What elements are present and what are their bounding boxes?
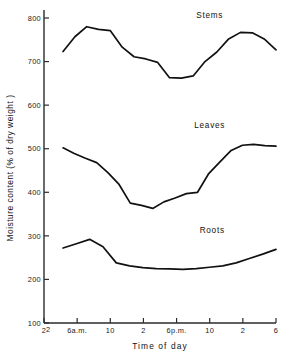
line-chart: 100200300400500600700800 26a.m.1026p.m.1…: [0, 0, 282, 353]
x-tick-label-6: 2: [241, 326, 245, 335]
y-tick-label-500: 500: [28, 144, 41, 153]
y-tick-label-700: 700: [28, 57, 41, 66]
x-tick-label-1: 6a.m.: [67, 326, 87, 335]
x-tick-label-3: 2: [141, 326, 145, 335]
series-line-stems: [63, 27, 276, 78]
x-axis-title: Time of day: [132, 341, 188, 351]
x-axis-tick-labels: 26a.m.1026p.m.1026: [42, 326, 278, 335]
series-label-stems: Stems: [196, 11, 223, 20]
x-tick-label-2: 10: [106, 326, 115, 335]
x-tick-label-5: 10: [205, 326, 214, 335]
series-line-roots: [63, 239, 276, 269]
chart-figure: 100200300400500600700800 26a.m.1026p.m.1…: [0, 0, 282, 353]
y-axis-tick-labels: 100200300400500600700800: [28, 14, 41, 328]
y-axis-ticks: [44, 18, 49, 323]
y-tick-label-400: 400: [28, 188, 41, 197]
x-axis-origin-label: 2: [46, 325, 50, 334]
series-line-leaves: [63, 144, 276, 208]
y-tick-label-300: 300: [28, 232, 41, 241]
y-tick-label-200: 200: [28, 275, 41, 284]
x-tick-label-4: 6p.m.: [167, 326, 187, 335]
x-axis-ticks: [44, 318, 276, 323]
y-tick-label-800: 800: [28, 14, 41, 23]
series-label-roots: Roots: [200, 226, 225, 235]
series-label-leaves: Leaves: [194, 121, 225, 130]
y-axis-title: Moisture content (% of dry weight ): [5, 95, 15, 242]
x-tick-label-7: 6: [274, 326, 278, 335]
y-tick-label-600: 600: [28, 101, 41, 110]
y-tick-label-100: 100: [28, 319, 41, 328]
